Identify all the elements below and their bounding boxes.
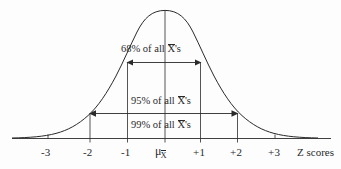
- axis-tick-label-plus-3: +3: [268, 147, 280, 158]
- axis-tick-label-minus-3: -3: [41, 147, 51, 158]
- axis-center-label-mu: μX: [155, 145, 168, 160]
- band-label-99: 99% of all X's: [131, 120, 191, 131]
- distribution-drawing: [0, 0, 341, 169]
- axis-tick-label-plus-2: +2: [230, 147, 242, 158]
- band-95-tail-text: 's: [185, 95, 191, 106]
- band-99-percent-text: 99% of all: [131, 119, 177, 130]
- band-95-xbar-symbol: X: [177, 96, 185, 107]
- band-label-95: 95% of all X's: [131, 96, 191, 107]
- axis-tick-label-minus-1: -1: [121, 147, 131, 158]
- band-68-percent-text: 68% of all: [121, 43, 167, 54]
- band-99-tail-text: 's: [185, 119, 191, 130]
- band-99-xbar-symbol: X: [177, 120, 185, 131]
- axis-tick-label-plus-1: +1: [193, 147, 205, 158]
- band-95-percent-text: 95% of all: [131, 95, 177, 106]
- band-68-tail-text: 's: [175, 43, 181, 54]
- band-68-xbar-symbol: X: [167, 44, 175, 55]
- normal-distribution-figure: 68% of all X's 95% of all X's 99% of all…: [0, 0, 341, 169]
- band-label-68: 68% of all X's: [121, 44, 181, 55]
- axis-title: Z scores: [297, 147, 334, 158]
- mu-subscript-xbar: X: [160, 151, 166, 160]
- axis-tick-label-minus-2: -2: [83, 147, 93, 158]
